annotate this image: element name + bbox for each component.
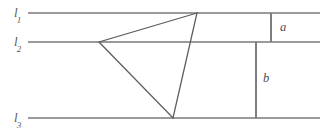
parallel-lines-group xyxy=(28,13,320,118)
inscribed-triangle xyxy=(99,13,197,118)
measure-segments-group xyxy=(256,13,271,118)
line-label-l3-subscript: 3 xyxy=(17,120,22,130)
line-label-l2-subscript: 2 xyxy=(17,44,22,54)
line-label-l3: l3 xyxy=(14,111,22,128)
geometry-figure: l1 l2 l3 a b xyxy=(0,0,333,130)
line-label-l2: l2 xyxy=(14,35,22,52)
measure-label-b: b xyxy=(263,72,269,85)
line-label-l1-subscript: 1 xyxy=(17,15,22,25)
line-label-l1: l1 xyxy=(14,6,22,23)
measure-label-a: a xyxy=(280,21,286,34)
